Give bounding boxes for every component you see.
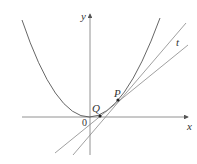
diagram-canvas: y x 0 Q P t — [0, 0, 197, 164]
y-axis-label: y — [80, 10, 86, 22]
point-q-label: Q — [92, 102, 100, 114]
origin-label: 0 — [82, 117, 87, 128]
parabola-curve — [22, 18, 160, 117]
x-axis-label: x — [186, 120, 192, 132]
point-p-label: P — [113, 87, 121, 99]
point-q — [98, 114, 101, 117]
tangent-label: t — [176, 36, 180, 48]
tangent-line-t — [55, 45, 188, 153]
